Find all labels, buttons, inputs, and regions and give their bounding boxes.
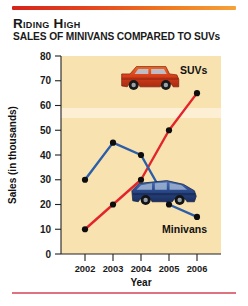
- series-label-minivans: Minivans: [162, 223, 207, 235]
- plot-highlight-band: [61, 108, 221, 118]
- page-title: Riding High: [13, 16, 81, 31]
- ytick-10: 10: [40, 224, 52, 235]
- ytick-80: 80: [40, 51, 52, 62]
- y-axis-ticks: [55, 56, 61, 254]
- top-divider-rule: [12, 6, 236, 10]
- xtick-2005: 2005: [159, 264, 180, 274]
- x-axis-title: Year: [130, 277, 151, 288]
- xtick-2006: 2006: [187, 264, 208, 274]
- ytick-70: 70: [40, 75, 52, 86]
- chart-page: Riding High SALES OF MINIVANS COMPARED T…: [0, 0, 248, 306]
- line-chart: 80 70 60 50 40 30 20 10 0 2002: [0, 48, 248, 288]
- ytick-50: 50: [40, 125, 52, 136]
- xtick-2004: 2004: [131, 264, 153, 274]
- ytick-60: 60: [40, 100, 52, 111]
- page-subtitle: SALES OF MINIVANS COMPARED TO SUVs: [13, 31, 220, 42]
- x-axis-ticks: [85, 254, 197, 261]
- y-axis-title: Sales (in thousands): [7, 106, 18, 204]
- ytick-40: 40: [40, 150, 52, 161]
- ytick-0: 0: [45, 249, 51, 260]
- y-axis-tick-labels: 80 70 60 50 40 30 20 10 0: [40, 51, 52, 260]
- ytick-30: 30: [40, 174, 52, 185]
- ytick-20: 20: [40, 199, 52, 210]
- bottom-divider-rule: [12, 292, 236, 294]
- xtick-2002: 2002: [75, 264, 96, 274]
- series-label-suvs: SUVs: [180, 64, 208, 76]
- xtick-2003: 2003: [103, 264, 124, 274]
- x-axis-tick-labels: 2002 2003 2004 2005 2006: [75, 264, 208, 274]
